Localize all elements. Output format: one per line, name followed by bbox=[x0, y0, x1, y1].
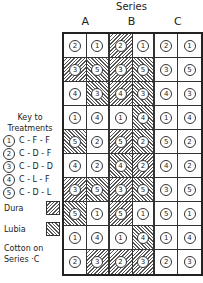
plot-cell: 3 bbox=[133, 82, 156, 106]
circled-number-icon: 2 bbox=[137, 160, 149, 172]
lubia-hatch-swatch-icon bbox=[46, 222, 60, 236]
plot-cell: 3 bbox=[133, 250, 156, 274]
circled-number-icon: 1 bbox=[115, 112, 127, 124]
key-title-line2: Treatments bbox=[0, 123, 60, 134]
circled-number-icon: 1 bbox=[3, 135, 15, 147]
key-item-label: C - D - F bbox=[19, 149, 51, 158]
plot-cell: 3 bbox=[155, 178, 178, 202]
circled-number-icon: 5 bbox=[137, 64, 149, 76]
key-item-label: C - D - D bbox=[19, 162, 53, 171]
key-title-line1: Key to bbox=[0, 112, 60, 123]
plot-cell: 1 bbox=[178, 202, 201, 226]
circled-number-icon: 1 bbox=[137, 40, 149, 52]
circled-number-icon: 5 bbox=[69, 208, 81, 220]
plot-cell: 5 bbox=[64, 202, 87, 226]
circled-number-icon: 5 bbox=[137, 184, 149, 196]
plot-cell: 5 bbox=[178, 178, 201, 202]
key-item-label: C - D - L bbox=[19, 188, 51, 197]
plot-cell: 1 bbox=[64, 106, 87, 130]
circled-number-icon: 2 bbox=[91, 136, 103, 148]
circled-number-icon: 3 bbox=[115, 64, 127, 76]
series-column-labels: A B C bbox=[62, 15, 201, 28]
circled-number-icon: 3 bbox=[137, 256, 149, 268]
plot-cell: 4 bbox=[155, 82, 178, 106]
plot-cell: 3 bbox=[110, 178, 133, 202]
key-item-label: C - L - F bbox=[19, 175, 50, 184]
plot-cell: 4 bbox=[87, 106, 110, 130]
plot-cell: 1 bbox=[110, 226, 133, 250]
circled-number-icon: 5 bbox=[160, 136, 172, 148]
key-item-3: 3C - D - D bbox=[3, 160, 60, 173]
plot-cell: 4 bbox=[133, 226, 156, 250]
circled-number-icon: 4 bbox=[91, 232, 103, 244]
plot-cell: 5 bbox=[133, 58, 156, 82]
circled-number-icon: 1 bbox=[184, 40, 196, 52]
plot-cell: 1 bbox=[178, 34, 201, 58]
circled-number-icon: 1 bbox=[160, 112, 172, 124]
circled-number-icon: 3 bbox=[115, 184, 127, 196]
treatment-key: Key to Treatments 1C - F - F 2C - D - F … bbox=[0, 112, 60, 199]
plot-cell: 4 bbox=[110, 82, 133, 106]
key-item-5: 5C - D - L bbox=[3, 186, 60, 199]
legend-lubia: Lubia bbox=[4, 222, 60, 236]
plot-cell: 2 bbox=[133, 154, 156, 178]
plot-cell: 2 bbox=[110, 34, 133, 58]
circled-number-icon: 5 bbox=[160, 208, 172, 220]
circled-number-icon: 1 bbox=[115, 232, 127, 244]
circled-number-icon: 3 bbox=[3, 161, 15, 173]
dura-hatch-swatch-icon bbox=[46, 201, 60, 215]
circled-number-icon: 4 bbox=[91, 112, 103, 124]
circled-number-icon: 5 bbox=[184, 184, 196, 196]
plot-cell: 3 bbox=[87, 82, 110, 106]
plot-cell: 1 bbox=[155, 106, 178, 130]
circled-number-icon: 5 bbox=[115, 208, 127, 220]
plot-cell: 1 bbox=[155, 226, 178, 250]
plot-cell: 5 bbox=[178, 58, 201, 82]
plot-cell: 5 bbox=[87, 178, 110, 202]
series-title: Series bbox=[62, 1, 201, 12]
circled-number-icon: 2 bbox=[184, 160, 196, 172]
plot-cell: 5 bbox=[110, 202, 133, 226]
plot-cell: 5 bbox=[64, 130, 87, 154]
series-label-c: C bbox=[155, 15, 201, 28]
plot-cell: 3 bbox=[178, 82, 201, 106]
circled-number-icon: 2 bbox=[160, 256, 172, 268]
circled-number-icon: 2 bbox=[115, 256, 127, 268]
series-label-b: B bbox=[108, 15, 154, 28]
circled-number-icon: 1 bbox=[137, 208, 149, 220]
key-item-1: 1C - F - F bbox=[3, 134, 60, 147]
circled-number-icon: 4 bbox=[115, 160, 127, 172]
plot-grid: 2121213535354343431414145252524242423535… bbox=[62, 32, 203, 276]
circled-number-icon: 5 bbox=[91, 184, 103, 196]
circled-number-icon: 4 bbox=[160, 160, 172, 172]
plot-cell: 2 bbox=[110, 250, 133, 274]
circled-number-icon: 4 bbox=[137, 112, 149, 124]
plot-cell: 4 bbox=[87, 226, 110, 250]
circled-number-icon: 3 bbox=[91, 88, 103, 100]
circled-number-icon: 3 bbox=[69, 184, 81, 196]
circled-number-icon: 2 bbox=[3, 148, 15, 160]
plot-cell: 4 bbox=[64, 154, 87, 178]
circled-number-icon: 1 bbox=[91, 40, 103, 52]
circled-number-icon: 4 bbox=[69, 88, 81, 100]
circled-number-icon: 4 bbox=[160, 88, 172, 100]
circled-number-icon: 4 bbox=[184, 232, 196, 244]
circled-number-icon: 2 bbox=[69, 256, 81, 268]
key-item-2: 2C - D - F bbox=[3, 147, 60, 160]
plot-cell: 5 bbox=[87, 58, 110, 82]
plot-cell: 4 bbox=[155, 154, 178, 178]
circled-number-icon: 3 bbox=[160, 64, 172, 76]
circled-number-icon: 2 bbox=[137, 136, 149, 148]
plot-cell: 1 bbox=[87, 34, 110, 58]
circled-number-icon: 1 bbox=[69, 232, 81, 244]
cotton-note-line2: Series ·C bbox=[4, 254, 43, 265]
cotton-note-line1: Cotton on bbox=[4, 243, 43, 254]
circled-number-icon: 4 bbox=[69, 160, 81, 172]
circled-number-icon: 4 bbox=[137, 232, 149, 244]
plot-cell: 1 bbox=[133, 202, 156, 226]
circled-number-icon: 1 bbox=[69, 112, 81, 124]
circled-number-icon: 2 bbox=[184, 136, 196, 148]
circled-number-icon: 2 bbox=[91, 160, 103, 172]
plot-cell: 2 bbox=[178, 154, 201, 178]
plot-cell: 4 bbox=[133, 106, 156, 130]
